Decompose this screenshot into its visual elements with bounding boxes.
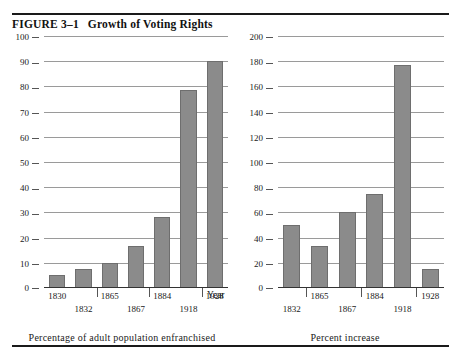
x-axis-label: 1832 — [283, 304, 301, 314]
bar — [154, 217, 170, 288]
bar — [366, 194, 383, 289]
caption-right: Percent increase — [240, 332, 450, 343]
x-axis-label: 1884 — [153, 291, 171, 301]
y-axis-tick-label: 140 — [250, 108, 274, 118]
y-tick-dash — [32, 37, 39, 38]
bottom-rule — [12, 345, 449, 347]
x-axis-tick — [416, 288, 417, 297]
y-tick-dash — [266, 37, 273, 38]
y-axis-tick-label: 60 — [20, 133, 39, 143]
y-axis-tick-label: 100 — [250, 158, 274, 168]
x-axis-tick — [361, 288, 362, 297]
y-axis-tick-label: 100 — [16, 32, 40, 42]
caption-left: Percentage of adult population enfranchi… — [14, 332, 230, 343]
x-axis-label: 1928 — [421, 291, 439, 301]
y-tick-dash — [32, 288, 39, 289]
y-tick-dash — [266, 214, 273, 215]
y-tick-dash — [266, 138, 273, 139]
bar — [180, 90, 196, 288]
bar — [311, 246, 328, 288]
y-axis-tick-label: 20 — [254, 259, 273, 269]
x-axis-tick — [97, 288, 98, 297]
x-axis-label: 1832 — [74, 304, 92, 314]
y-tick-dash — [32, 88, 39, 89]
y-axis-tick-label: 10 — [20, 259, 39, 269]
x-axis-label: 1867 — [127, 304, 145, 314]
x-axis-tick — [202, 288, 203, 297]
y-axis-tick-label: 70 — [20, 108, 39, 118]
x-axis-label: 1865 — [311, 291, 329, 301]
y-axis-tick-label: 40 — [254, 234, 273, 244]
y-tick-dash — [32, 138, 39, 139]
x-axis-label: 1918 — [394, 304, 412, 314]
y-axis-tick-label: 40 — [20, 183, 39, 193]
bar-series-right — [278, 36, 444, 288]
y-axis-tick-label: 30 — [20, 208, 39, 218]
y-tick-dash — [32, 163, 39, 164]
bar — [102, 263, 118, 288]
y-tick-dash — [32, 264, 39, 265]
chart-panel-left: 0102030405060708090100 18301865188419281… — [14, 32, 230, 332]
y-axis-tick-label: 180 — [250, 57, 274, 67]
y-tick-dash — [266, 239, 273, 240]
figure-title-text: Growth of Voting Rights — [88, 18, 213, 30]
plot-area-right: 020406080100120140160180200 — [278, 36, 444, 288]
x-axis-tick — [306, 288, 307, 297]
x-axis-label: 1867 — [338, 304, 356, 314]
bar — [128, 246, 144, 288]
y-tick-dash — [266, 288, 273, 289]
y-tick-dash — [32, 239, 39, 240]
y-tick-dash — [266, 163, 273, 164]
x-axis-labels-left: 1830186518841928183218671918 — [44, 288, 228, 330]
y-axis-tick-label: 20 — [20, 234, 39, 244]
top-rule — [12, 13, 449, 15]
y-tick-dash — [266, 264, 273, 265]
y-tick-dash — [32, 113, 39, 114]
plot-area-left: 0102030405060708090100 — [44, 36, 228, 288]
figure-title: FIGURE 3–1Growth of Voting Rights — [12, 18, 213, 30]
x-axis-label: 1830 — [48, 291, 66, 301]
y-tick-dash — [32, 189, 39, 190]
figure-container: FIGURE 3–1Growth of Voting Rights 010203… — [0, 0, 461, 363]
y-tick-dash — [266, 63, 273, 64]
y-axis-tick-label: 200 — [250, 32, 274, 42]
y-axis-tick-label: 0 — [259, 283, 274, 293]
y-axis-tick-label: 80 — [20, 82, 39, 92]
bar — [339, 212, 356, 288]
y-axis-tick-label: 60 — [254, 208, 273, 218]
y-axis-tick-label: 0 — [25, 283, 40, 293]
y-axis-tick-label: 120 — [250, 133, 274, 143]
bar — [207, 61, 223, 288]
x-axis-label: 1918 — [180, 304, 198, 314]
x-axis-tick — [149, 288, 150, 297]
x-axis-labels-right: 186518841928183218671918 — [278, 288, 444, 330]
chart-panel-right: 020406080100120140160180200 186518841928… — [240, 32, 450, 332]
y-axis-tick-label: 50 — [20, 158, 39, 168]
bar — [283, 225, 300, 288]
shared-year-axis-label: Year — [207, 290, 225, 300]
bar — [75, 269, 91, 288]
figure-number: FIGURE 3–1 — [12, 18, 79, 30]
y-tick-dash — [32, 214, 39, 215]
y-axis-tick-label: 80 — [254, 183, 273, 193]
x-axis-label: 1865 — [101, 291, 119, 301]
bar — [394, 65, 411, 288]
y-axis-tick-label: 160 — [250, 82, 274, 92]
y-tick-dash — [266, 113, 273, 114]
bar — [422, 269, 439, 288]
x-axis-label: 1884 — [366, 291, 384, 301]
y-tick-dash — [266, 88, 273, 89]
y-tick-dash — [266, 189, 273, 190]
y-tick-dash — [32, 63, 39, 64]
y-axis-tick-label: 90 — [20, 57, 39, 67]
bar-series-left — [44, 36, 228, 288]
